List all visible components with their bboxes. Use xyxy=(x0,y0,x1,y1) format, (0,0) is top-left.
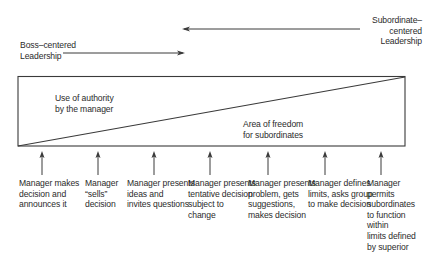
behavior-4-label: Manager presents tentative decision subj… xyxy=(188,178,256,220)
up-arrow-icon xyxy=(40,151,45,175)
boss-centered-label: Boss–centered Leadership xyxy=(20,40,76,61)
behavior-6-label: Manager defines limits, asks group to ma… xyxy=(308,178,373,210)
up-arrow-icon xyxy=(96,151,101,175)
manager-authority-label: Use of authority by the manager xyxy=(55,93,114,114)
up-arrow-icon xyxy=(152,151,157,175)
up-arrow-icon xyxy=(266,151,271,175)
subordinate-freedom-label: Area of freedom for subordinates xyxy=(243,119,303,140)
up-arrow-icon xyxy=(379,151,384,175)
boss-centered-arrow xyxy=(63,51,185,56)
behavior-2-label: Manager “sells” decision xyxy=(85,178,118,210)
up-arrow-icon xyxy=(208,151,213,175)
behavior-7-label: Manager permits subordinates to function… xyxy=(367,178,416,252)
subordinate-centered-arrow xyxy=(182,27,360,32)
up-arrow-icon xyxy=(323,151,328,175)
behavior-3-label: Manager presents ideas and invites quest… xyxy=(127,178,195,210)
behavior-1-label: Manager makes decision and announces it xyxy=(19,178,79,210)
behavior-5-label: Manager presents problem, gets suggestio… xyxy=(248,178,316,220)
subordinate-centered-label: Subordinate–centered Leadership xyxy=(360,15,422,47)
behavior-arrows xyxy=(40,151,384,175)
